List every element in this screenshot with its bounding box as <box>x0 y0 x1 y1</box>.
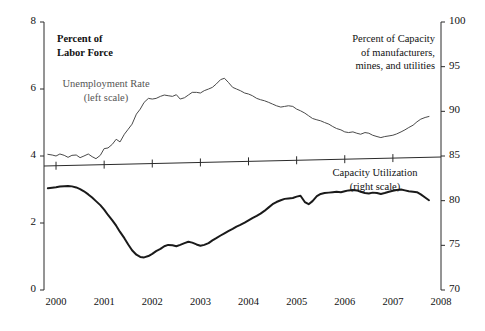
left-tick-label-4: 4 <box>18 148 36 160</box>
x-tick-label-2006: 2006 <box>324 296 366 307</box>
right-axis-title-line1: Percent of Capacity <box>352 32 435 46</box>
right-tick-label-85: 85 <box>449 148 473 160</box>
capacity-label-line2: (right scale) <box>320 180 430 194</box>
left-axis-title-line2: Labor Force <box>57 46 113 60</box>
x-tick-label-2007: 2007 <box>372 296 414 307</box>
right-tick-label-100: 100 <box>449 14 473 26</box>
left-axis-title: Percent of Labor Force <box>57 32 113 59</box>
right-tick-label-80: 80 <box>449 193 473 205</box>
x-tick-label-2000: 2000 <box>35 296 77 307</box>
capacity-series-label: Capacity Utilization (right scale) <box>320 166 430 193</box>
x-tick-label-2004: 2004 <box>228 296 270 307</box>
right-tick-label-90: 90 <box>449 103 473 115</box>
right-tick-label-95: 95 <box>449 59 473 71</box>
right-axis-ticks <box>441 22 445 290</box>
x-tick-label-2003: 2003 <box>179 296 221 307</box>
chart-container: Percent of Labor Force Percent of Capaci… <box>0 0 485 331</box>
left-tick-label-0: 0 <box>18 282 36 294</box>
right-axis-title-line3: mines, and utilities <box>352 59 435 73</box>
left-tick-label-6: 6 <box>18 81 36 93</box>
series-capacity-utilization <box>48 186 429 257</box>
horizontal-baseline <box>44 157 441 166</box>
capacity-label-line1: Capacity Utilization <box>320 166 430 180</box>
x-tick-label-2001: 2001 <box>83 296 125 307</box>
x-tick-label-2005: 2005 <box>276 296 318 307</box>
unemployment-label-line2: (left scale) <box>46 91 166 105</box>
unemployment-label-line1: Unemployment Rate <box>46 77 166 91</box>
right-axis-title-line2: of manufacturers, <box>352 46 435 60</box>
left-tick-label-8: 8 <box>18 14 36 26</box>
left-axis-ticks <box>40 22 44 290</box>
right-tick-label-70: 70 <box>449 282 473 294</box>
right-tick-label-75: 75 <box>449 237 473 249</box>
unemployment-series-label: Unemployment Rate (left scale) <box>46 77 166 104</box>
left-tick-label-2: 2 <box>18 215 36 227</box>
x-tick-label-2008: 2008 <box>420 296 462 307</box>
x-tick-label-2002: 2002 <box>131 296 173 307</box>
left-axis-title-line1: Percent of <box>57 32 113 46</box>
right-axis-title: Percent of Capacity of manufacturers, mi… <box>352 32 435 73</box>
